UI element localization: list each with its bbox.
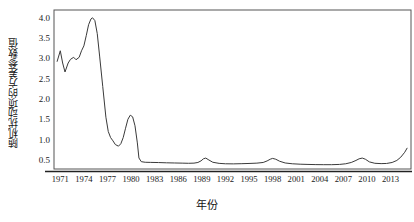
plot-frame xyxy=(54,10,411,169)
y-tick-label: 3.0 xyxy=(39,53,51,63)
x-tick-label: 1977 xyxy=(99,174,117,184)
chart-figure: 随机扰动项的方差参数值 0.51.01.52.02.53.03.54.0 197… xyxy=(0,0,414,222)
line-chart-svg: 0.51.01.52.02.53.03.54.0 197119741977198… xyxy=(26,6,414,191)
y-tick-label: 0.5 xyxy=(39,155,51,165)
y-tick-label: 3.5 xyxy=(39,33,51,43)
y-axis-title-text: 随机扰动项的方差参数值 xyxy=(8,38,19,148)
x-tick-label: 2010 xyxy=(358,174,375,184)
y-tick-label: 4.0 xyxy=(39,13,51,23)
x-tick-label: 1998 xyxy=(264,174,281,184)
y-tick-label: 2.0 xyxy=(39,94,51,104)
x-tick-label: 2004 xyxy=(311,174,329,184)
data-series-line xyxy=(57,18,407,165)
x-tick-label: 1971 xyxy=(52,174,69,184)
x-tick-label: 1986 xyxy=(170,174,188,184)
y-tick-label: 1.5 xyxy=(39,114,51,124)
x-tick-label: 1989 xyxy=(193,174,210,184)
x-axis-title-text: 年份 xyxy=(196,199,218,212)
x-tick-label: 2001 xyxy=(288,174,305,184)
x-tick-label: 1992 xyxy=(217,174,234,184)
y-tick-label: 2.5 xyxy=(39,74,51,84)
x-tick-label: 1983 xyxy=(146,174,163,184)
x-axis-title: 年份 xyxy=(0,196,414,212)
y-axis-title: 随机扰动项的方差参数值 xyxy=(0,0,26,186)
x-tick-label-group: 1971197419771980198319861989199219951998… xyxy=(52,174,399,184)
y-tick-label-group: 0.51.01.52.02.53.03.54.0 xyxy=(39,13,51,166)
x-tick-label: 2013 xyxy=(382,174,399,184)
x-tick-label: 1995 xyxy=(240,174,257,184)
x-tick-label: 1980 xyxy=(122,174,139,184)
x-tick-label: 1974 xyxy=(75,174,93,184)
plot-area: 0.51.01.52.02.53.03.54.0 197119741977198… xyxy=(26,6,414,191)
x-tick-label: 2007 xyxy=(335,174,353,184)
y-tick-label: 1.0 xyxy=(39,135,51,145)
